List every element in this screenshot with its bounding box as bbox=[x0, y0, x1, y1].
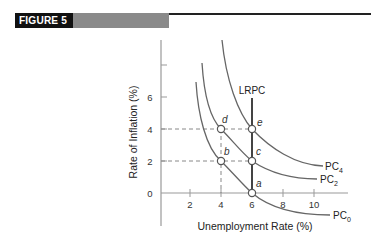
y-axis-title: Rate of Inflation (%) bbox=[127, 86, 139, 179]
point-a-label: a bbox=[256, 178, 262, 189]
point-a bbox=[248, 189, 255, 196]
y-tick-label: 2 bbox=[147, 156, 152, 167]
point-c-label: c bbox=[256, 146, 261, 157]
points bbox=[217, 125, 255, 196]
phillips-curve-chart: 0 2 4 6 2 4 6 8 10 Unemployment Rate (%)… bbox=[0, 0, 371, 246]
point-d bbox=[217, 125, 224, 132]
y-tick-label: 4 bbox=[147, 124, 152, 135]
lrpc-label: LRPC bbox=[239, 85, 266, 96]
y-ticks bbox=[161, 65, 167, 161]
pc0-curve bbox=[196, 82, 330, 215]
point-d-label: d bbox=[222, 114, 228, 125]
x-tick-label: 4 bbox=[218, 199, 223, 210]
x-tick-label: 10 bbox=[309, 199, 320, 210]
point-b bbox=[217, 157, 224, 164]
pc0-label: PC0 bbox=[333, 210, 351, 223]
y-tick-label: 6 bbox=[147, 92, 152, 103]
x-tick-label: 6 bbox=[249, 199, 254, 210]
point-b-label: b bbox=[224, 146, 230, 157]
y-tick-label: 0 bbox=[147, 188, 152, 199]
point-e-label: e bbox=[257, 117, 263, 128]
pc2-label: PC2 bbox=[320, 174, 338, 187]
point-e bbox=[248, 125, 255, 132]
point-c bbox=[248, 157, 255, 164]
x-tick-label: 2 bbox=[187, 199, 192, 210]
x-axis-title: Unemployment Rate (%) bbox=[198, 220, 313, 232]
pc4-label: PC4 bbox=[325, 161, 343, 174]
